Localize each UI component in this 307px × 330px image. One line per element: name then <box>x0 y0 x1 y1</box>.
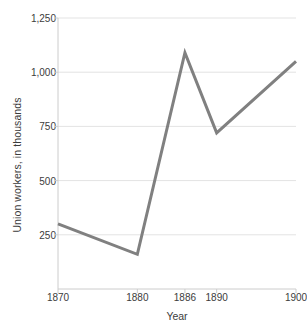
line-chart: Union workers, in thousands 2505007501,0… <box>0 0 307 330</box>
x-tick-label: 1900 <box>285 292 307 303</box>
x-axis-title: Year <box>58 310 296 322</box>
x-tick-label: 1886 <box>174 292 196 303</box>
axis-lines <box>58 18 296 289</box>
x-tick-label: 1880 <box>126 292 148 303</box>
x-tick-label: 1890 <box>206 292 228 303</box>
x-axis-tick-labels: 18701880188618901900 <box>58 289 296 311</box>
gridlines <box>58 18 296 235</box>
tick-marks <box>54 18 296 293</box>
data-line-union-workers <box>58 53 296 255</box>
x-tick-label: 1870 <box>47 292 69 303</box>
plot-canvas <box>0 0 307 330</box>
